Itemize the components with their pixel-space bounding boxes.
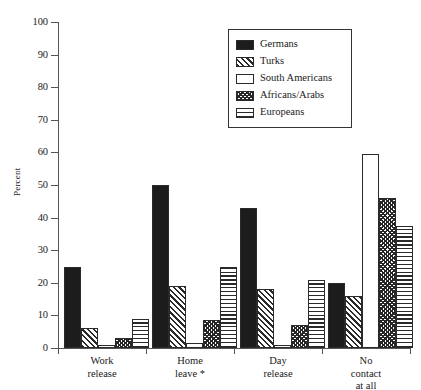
y-axis-tick [51, 348, 58, 349]
bar-europeans-no-contact-at-all [396, 226, 413, 348]
y-axis-tick [51, 185, 58, 186]
y-axis-tick-label: 10 [14, 310, 48, 321]
y-axis-tick [51, 315, 58, 316]
x-axis-category-label-line: release [54, 368, 150, 381]
bar-germans-day-release [240, 208, 257, 348]
x-axis-category-label-line: leave * [142, 368, 238, 381]
x-axis-tick [58, 348, 59, 354]
bar-africans-arabs-no-contact-at-all [379, 198, 396, 348]
y-axis-tick-label: 80 [14, 82, 48, 93]
x-axis-category-label-line: at all [318, 380, 414, 390]
y-axis-tick-label: 90 [14, 49, 48, 60]
x-axis-category-label: Homeleave * [142, 355, 238, 380]
x-axis-tick [322, 348, 323, 354]
bar-turks-home-leave- [169, 286, 186, 348]
x-axis-category-label-line: contact [318, 368, 414, 381]
bar-africans-arabs-home-leave- [203, 320, 220, 348]
legend-item-label: Africans/Arabs [260, 90, 324, 101]
legend-swatch-icon [236, 108, 254, 118]
bar-south-americans-work-release [98, 345, 115, 348]
legend-item-label: Turks [260, 56, 284, 67]
y-axis-tick-label: 0 [14, 343, 48, 354]
bar-south-americans-home-leave- [186, 343, 203, 348]
y-axis-tick [51, 55, 58, 56]
y-axis-tick [51, 120, 58, 121]
bar-group [64, 22, 149, 348]
legend-item-south-americans: South Americans [236, 70, 344, 87]
bar-south-americans-no-contact-at-all [362, 154, 379, 348]
legend-item-label: Germans [260, 39, 298, 50]
y-axis-tick [51, 218, 58, 219]
legend-item-europeans: Europeans [236, 104, 344, 121]
y-axis-tick-label: 30 [14, 245, 48, 256]
y-axis-tick-label: 40 [14, 212, 48, 223]
legend-item-label: Europeans [260, 107, 304, 118]
x-axis-category-label-line: Day [230, 355, 326, 368]
bar-germans-work-release [64, 267, 81, 349]
bar-chart: Percent 0102030405060708090100 Workrelea… [0, 0, 421, 390]
bar-turks-no-contact-at-all [345, 296, 362, 348]
y-axis-tick [51, 250, 58, 251]
bar-europeans-day-release [308, 280, 325, 348]
x-axis-category-label: Nocontactat all [318, 355, 414, 390]
legend-item-germans: Germans [236, 36, 344, 53]
bar-africans-arabs-work-release [115, 338, 132, 348]
bar-europeans-home-leave- [220, 267, 237, 349]
bar-south-americans-day-release [274, 345, 291, 348]
y-axis-tick [51, 283, 58, 284]
y-axis-tick-label: 50 [14, 180, 48, 191]
y-axis-tick-label: 20 [14, 278, 48, 289]
y-axis-tick-label: 70 [14, 115, 48, 126]
legend-item-turks: Turks [236, 53, 344, 70]
x-axis-category-label-line: Work [54, 355, 150, 368]
y-axis-line [58, 22, 59, 349]
legend-item-africans-arabs: Africans/Arabs [236, 87, 344, 104]
bar-europeans-work-release [132, 319, 149, 348]
x-axis-category-label-line: release [230, 368, 326, 381]
legend-swatch-icon [236, 74, 254, 84]
bar-germans-no-contact-at-all [328, 283, 345, 348]
x-axis-category-label: Dayrelease [230, 355, 326, 380]
bar-germans-home-leave- [152, 185, 169, 348]
legend-swatch-icon [236, 57, 254, 67]
bar-turks-work-release [81, 328, 98, 348]
bar-turks-day-release [257, 289, 274, 348]
legend-swatch-icon [236, 40, 254, 50]
chart-legend: GermansTurksSouth AmericansAfricans/Arab… [228, 29, 352, 128]
y-axis-tick [51, 87, 58, 88]
y-axis-tick [51, 152, 58, 153]
x-axis-tick [410, 348, 411, 354]
y-axis-tick-label: 60 [14, 147, 48, 158]
x-axis-tick [234, 348, 235, 354]
y-axis-tick [51, 22, 58, 23]
bar-africans-arabs-day-release [291, 325, 308, 348]
legend-swatch-icon [236, 91, 254, 101]
x-axis-category-label: Workrelease [54, 355, 150, 380]
y-axis-tick-label: 100 [14, 17, 48, 28]
x-axis-tick [146, 348, 147, 354]
legend-item-label: South Americans [260, 73, 332, 84]
x-axis-category-label-line: Home [142, 355, 238, 368]
x-axis-category-label-line: No [318, 355, 414, 368]
bar-group [152, 22, 237, 348]
